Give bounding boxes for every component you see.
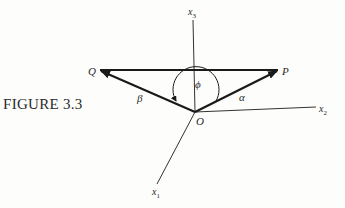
x2-label: x2 (318, 103, 327, 117)
vector-beta (101, 71, 195, 112)
point-q-label: Q (88, 65, 96, 77)
beta-label: β (136, 92, 143, 104)
x3-axis (193, 20, 195, 112)
x1-axis (157, 112, 195, 184)
x1-label: x1 (151, 186, 160, 200)
x2-axis (195, 107, 316, 112)
phi-label: ϕ (195, 78, 201, 90)
vector-alpha (195, 71, 277, 112)
point-o-label: O (196, 115, 204, 127)
alpha-label: α (239, 91, 245, 103)
vector-diagram: Q P O α β ϕ x3 x2 x1 (0, 0, 345, 208)
point-p-label: P (281, 65, 289, 77)
x3-label: x3 (187, 6, 196, 20)
